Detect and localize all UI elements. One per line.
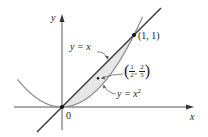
y-axis-arrow-icon [60, 14, 65, 22]
plot-canvas [0, 0, 208, 137]
origin-label: 0 [66, 111, 71, 121]
parabola-label-exponent: 2 [138, 87, 141, 94]
centroid-label: (12, 25) [124, 63, 150, 79]
intersection-point [132, 33, 136, 37]
line-equation-label: y = x [70, 42, 91, 52]
line-label-leader-arrow-icon [105, 56, 109, 60]
line-label-leader [97, 52, 107, 58]
origin-point [60, 105, 64, 109]
line-label-rhs: x [86, 41, 90, 52]
region-between-curves-diagram: y x 0 (1, 1) y = x y = x2 (12, 25) [0, 0, 208, 137]
y-axis-label: y [51, 13, 55, 23]
parabola-label-lhs: y = [117, 88, 133, 99]
parabola-curve [17, 79, 62, 116]
line-label-lhs: y = [70, 41, 86, 52]
x-axis-label: x [190, 112, 194, 122]
parabola-equation-label: y = x2 [117, 88, 141, 99]
centroid-point [97, 77, 99, 79]
intersection-label: (1, 1) [138, 31, 160, 41]
x-axis-arrow-icon [186, 105, 194, 110]
